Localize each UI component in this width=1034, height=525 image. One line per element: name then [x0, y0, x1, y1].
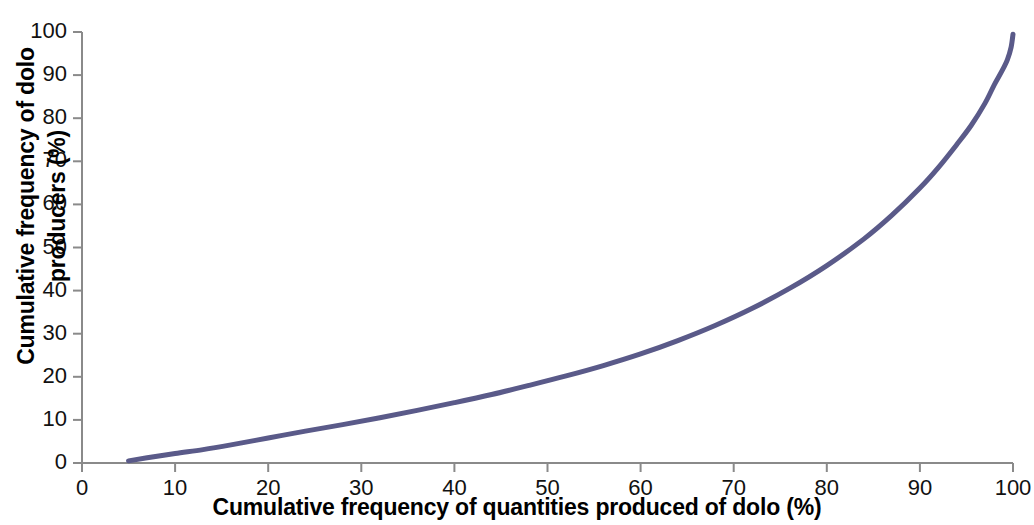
y-tick-label: 20 — [7, 363, 67, 389]
lorenz-curve-plot — [0, 0, 1034, 525]
axis-lines — [82, 32, 1013, 463]
y-axis-tick-marks — [73, 32, 82, 463]
chart-container: 0102030405060708090100 01020304050607080… — [0, 0, 1034, 525]
x-axis-title: Cumulative frequency of quantities produ… — [0, 494, 1034, 520]
y-tick-label: 10 — [7, 406, 67, 432]
x-axis-tick-marks — [82, 463, 1013, 472]
y-axis-title-line2: producers (%) — [42, 46, 73, 366]
y-tick-label: 0 — [7, 449, 67, 475]
y-axis-title: Cumulative frequency of dolo producers (… — [11, 46, 73, 366]
y-tick-label: 100 — [7, 18, 67, 44]
data-series-line — [129, 34, 1013, 461]
y-axis-title-line1: Cumulative frequency of dolo — [11, 46, 42, 366]
